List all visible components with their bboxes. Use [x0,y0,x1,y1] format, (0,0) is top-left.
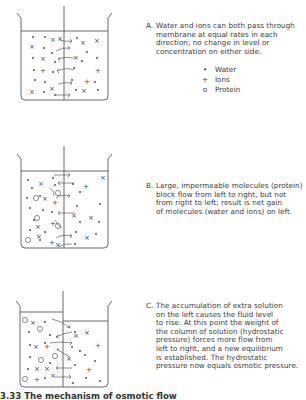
svg-text:×: × [50,36,56,44]
svg-text:×: × [84,234,90,242]
dot-icon: • [199,65,211,75]
svg-text:×: × [88,214,94,222]
panel-c: ××× ×++ ××× +×+ C. The accumulation of e… [0,285,306,390]
svg-text:+: + [84,78,90,86]
svg-text:×: × [29,43,35,51]
svg-text:+: + [95,342,101,350]
svg-text:×: × [81,87,87,95]
legend-item-ions: + Ions [199,75,240,85]
svg-text:+: + [50,220,56,228]
description-line: pressure now equals osmotic pressure. [156,362,298,371]
beaker-diagram-b: ××+ ×+ ×× ×+ ×× +× [0,140,130,255]
svg-text:×: × [33,343,39,351]
svg-text:×: × [50,372,56,380]
figure-caption: 3.33 The mechanism of osmotic flow [0,391,177,400]
svg-text:+: + [95,67,101,75]
panel-a-description: A. Water and ions can both pass through … [156,22,295,56]
panel-a-letter: A. [146,22,153,31]
svg-text:+: + [44,343,50,351]
panel-b-description: B. Large, impermeable molecules (protein… [156,182,303,216]
svg-text:×: × [40,55,46,63]
svg-text:×: × [84,329,90,337]
svg-text:+: + [40,67,46,75]
panel-c-letter: C. [146,302,153,311]
legend-label: Ions [215,75,230,85]
beaker-diagram-c: ××× ×++ ××× +×+ [0,285,130,390]
svg-text:×: × [42,195,48,203]
svg-text:×: × [35,223,41,231]
svg-text:×: × [49,85,55,93]
panel-a: ×××× ××× +++ ××× A. Water and ions can b… [0,0,306,130]
svg-text:×: × [94,37,100,45]
legend-item-water: • Water [199,65,240,75]
panel-b: ××+ ×+ ×× ×+ ×× +× B. Large, impermeable… [0,140,306,260]
legend-item-protein: o Protein [199,85,240,95]
svg-text:×: × [29,88,35,96]
description-line: concentration on either side. [156,48,295,57]
panel-c-description: C. The accumulation of extra solution on… [156,302,298,371]
circle-icon: o [199,85,211,95]
svg-text:×: × [57,35,63,43]
svg-text:×: × [73,332,79,340]
svg-text:×: × [30,319,36,327]
svg-text:×: × [44,365,50,373]
svg-text:+: + [52,199,58,207]
plus-icon: + [199,75,211,85]
svg-text:×: × [38,180,44,188]
svg-text:+: + [34,376,40,384]
legend-label: Protein [215,85,240,95]
legend-label: Water [215,65,236,75]
svg-text:×: × [36,233,42,241]
svg-text:×: × [80,39,86,47]
svg-text:+: + [83,183,89,191]
description-line: of molecules (water and ions) on left. [156,208,303,217]
legend: • Water + Ions o Protein [199,65,240,95]
beaker-diagram-a: ×××× ××× +++ ××× [0,0,130,110]
svg-text:×: × [55,241,61,249]
svg-text:×: × [100,174,106,182]
svg-text:+: + [86,366,92,374]
svg-text:×: × [34,365,40,373]
panel-b-letter: B. [146,182,153,191]
